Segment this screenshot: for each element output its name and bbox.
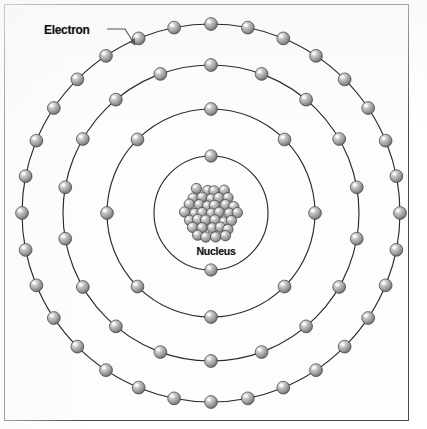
electron-s3-14 xyxy=(59,232,72,245)
electron-s4-12 xyxy=(362,312,375,325)
electron-s2-5 xyxy=(205,311,218,324)
electron-s3-9 xyxy=(255,346,268,359)
electron-s4-4 xyxy=(310,49,323,62)
electron-s3-3 xyxy=(300,93,313,106)
electron-s4-1 xyxy=(205,18,218,31)
electron-s2-8 xyxy=(131,133,144,146)
electron-s4-22 xyxy=(47,312,60,325)
electron-s4-32 xyxy=(168,21,181,34)
electron-s4-16 xyxy=(241,392,254,405)
electron-s4-2 xyxy=(241,21,254,34)
electron-s3-16 xyxy=(76,133,89,146)
electron-s4-11 xyxy=(379,279,392,292)
electron-s3-5 xyxy=(350,181,363,194)
electron-s3-10 xyxy=(205,355,218,368)
electron-s4-8 xyxy=(390,170,403,183)
electron-s4-25 xyxy=(16,207,29,220)
electron-s2-2 xyxy=(278,133,291,146)
electron-label: Electron xyxy=(44,22,90,37)
electron-s3-8 xyxy=(300,320,313,333)
electron-s4-14 xyxy=(310,364,323,377)
electron-s3-18 xyxy=(154,68,167,81)
electron-s4-28 xyxy=(47,102,60,115)
electron-s4-15 xyxy=(277,381,290,394)
nucleon-35 xyxy=(201,232,211,242)
electron-s2-6 xyxy=(131,280,144,293)
electron-s4-3 xyxy=(277,32,290,45)
electron-s4-29 xyxy=(71,73,84,86)
nucleus-cluster xyxy=(179,183,242,242)
electron-s4-13 xyxy=(338,340,351,353)
electron-s4-10 xyxy=(390,243,403,256)
electron-s2-4 xyxy=(278,280,291,293)
electron-s4-19 xyxy=(132,381,145,394)
electron-s3-1 xyxy=(205,59,218,72)
electron-s4-30 xyxy=(100,49,113,62)
nucleon-37 xyxy=(220,230,230,240)
electron-s4-23 xyxy=(30,279,43,292)
electron-s3-2 xyxy=(255,68,268,81)
electron-s4-7 xyxy=(379,134,392,147)
electron-s4-27 xyxy=(30,134,43,147)
electron-s3-7 xyxy=(333,281,346,294)
electron-s4-6 xyxy=(362,102,375,115)
electron-s3-17 xyxy=(109,93,122,106)
electron-s3-12 xyxy=(109,320,122,333)
electron-s3-4 xyxy=(333,133,346,146)
electron-s4-9 xyxy=(394,207,407,220)
electron-s1-1 xyxy=(205,150,217,162)
electron-s2-3 xyxy=(309,207,322,220)
electron-s4-21 xyxy=(71,340,84,353)
electron-s4-20 xyxy=(100,364,113,377)
electron-s1-2 xyxy=(205,264,217,276)
electron-s3-11 xyxy=(154,346,167,359)
electron-callout-leader xyxy=(107,29,135,45)
electron-s4-26 xyxy=(19,170,32,183)
electron-s3-15 xyxy=(59,181,72,194)
electron-s4-17 xyxy=(205,396,218,409)
nucleon-36 xyxy=(210,232,220,242)
nucleus-label: Nucleus xyxy=(184,245,248,257)
electron-s4-5 xyxy=(338,73,351,86)
electron-s2-7 xyxy=(101,207,114,220)
atom-illustration xyxy=(0,0,427,429)
electron-s3-13 xyxy=(76,281,89,294)
atom-diagram: Electron Nucleus xyxy=(0,0,427,429)
electron-s3-6 xyxy=(350,232,363,245)
electron-s4-18 xyxy=(168,392,181,405)
electron-s4-24 xyxy=(19,243,32,256)
electron-leader-line xyxy=(107,29,135,45)
electron-s2-1 xyxy=(205,103,218,116)
